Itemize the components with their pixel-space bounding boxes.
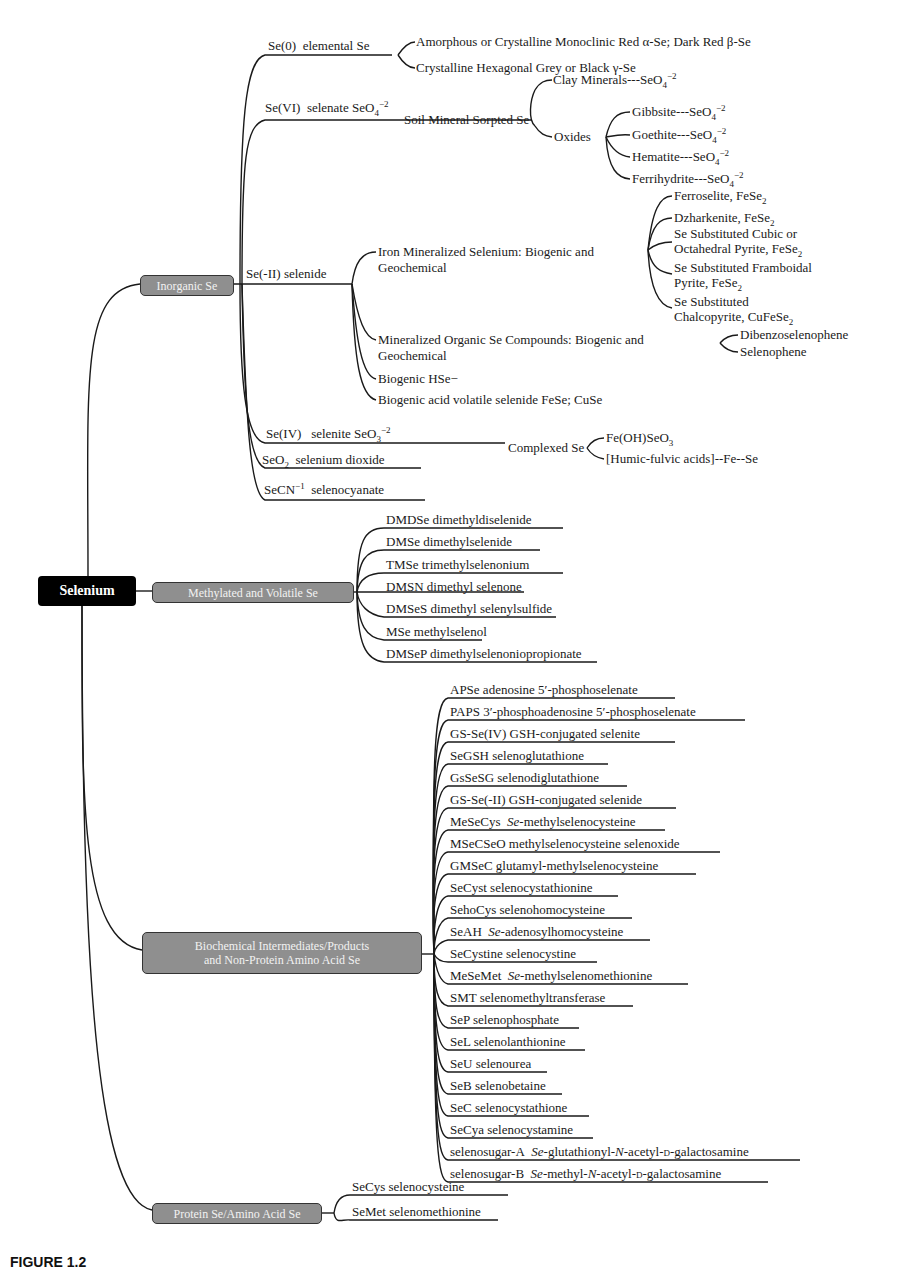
biochemical-item: SeAH Se-adenosylhomocysteine — [450, 924, 623, 939]
node-selenophene: Selenophene — [740, 344, 806, 359]
methylated-item: MSe methylselenol — [386, 624, 487, 639]
category-methylated-volatile-se[interactable]: Methylated and Volatile Se — [152, 582, 354, 603]
biochemical-item: SeL selenolanthionine — [450, 1034, 565, 1049]
category-protein-amino-acid-se[interactable]: Protein Se/Amino Acid Se — [152, 1203, 322, 1224]
node-feohseo3: Fe(OH)SeO3 — [606, 430, 673, 445]
node-organic-compounds-line1: Mineralized Organic Se Compounds: Biogen… — [378, 332, 644, 347]
node-chalcopyrite: Se SubstitutedChalcopyrite, CuFeSe2 — [674, 294, 793, 324]
biochemical-item: SeC selenocystathione — [450, 1100, 567, 1115]
biochemical-item: SeCyst selenocystathionine — [450, 880, 593, 895]
methylated-item: TMSe trimethylselenonium — [386, 557, 529, 572]
biochemical-item: selenosugar-A Se-glutathionyl-N-acetyl-d… — [450, 1144, 749, 1159]
biochemical-item: MSeCSeO methylselenocysteine selenoxide — [450, 836, 680, 851]
protein-item-semet: SeMet selenomethionine — [352, 1204, 481, 1219]
biochemical-item: MeSeMet Se-methylselenomethionine — [450, 968, 652, 983]
methylated-item: DMSeS dimethyl selenylsulfide — [386, 601, 552, 616]
biochemical-item: SeP selenophosphate — [450, 1012, 559, 1027]
node-cubic-pyrite: Se Substituted Cubic orOctahedral Pyrite… — [674, 226, 802, 256]
node-clay-minerals: Clay Minerals---SeO4−2 — [553, 72, 676, 87]
node-humic-fulvic: [Humic-fulvic acids]--Fe--Se — [606, 451, 758, 466]
biochemical-item: SehoCys selenohomocysteine — [450, 902, 605, 917]
node-biogenic-avs: Biogenic acid volatile selenide FeSe; Cu… — [378, 392, 602, 407]
biochemical-item: GsSeSG selenodiglutathione — [450, 770, 599, 785]
root-node-selenium[interactable]: Selenium — [38, 576, 136, 606]
category-biochemical-intermediates[interactable]: Biochemical Intermediates/Products and N… — [142, 932, 422, 974]
node-iron-mineralized-line2: Geochemical — [378, 260, 447, 275]
node-biogenic-hse: Biogenic HSe− — [378, 371, 458, 386]
node-soil-mineral-sorpted: Soil Mineral Sorpted Se — [404, 112, 529, 127]
node-se0-elemental: Se(0) elemental Se — [268, 38, 369, 53]
biochemical-item: APSe adenosine 5′-phosphoselenate — [450, 682, 638, 697]
node-gibbsite: Gibbsite---SeO4−2 — [632, 104, 726, 119]
node-framboidal-pyrite: Se Substituted FramboidalPyrite, FeSe2 — [674, 260, 812, 290]
category-biochemical-line1: Biochemical Intermediates/Products — [195, 939, 369, 953]
biochemical-item: GMSeC glutamyl-methylselenocysteine — [450, 858, 658, 873]
biochemical-item: GS-Se(-II) GSH-conjugated selenide — [450, 792, 642, 807]
biochemical-item: GS-Se(IV) GSH-conjugated selenite — [450, 726, 640, 741]
node-dibenzoselenophene: Dibenzoselenophene — [740, 327, 848, 342]
node-ferrihydrite: Ferrihydrite---SeO4−2 — [632, 171, 744, 186]
node-secn: SeCN−1 selenocyanate — [264, 482, 384, 497]
biochemical-item: SeGSH selenoglutathione — [450, 748, 584, 763]
methylated-item: DMSN dimethyl selenone — [386, 579, 522, 594]
protein-item-secys: SeCys selenocysteine — [352, 1179, 464, 1194]
node-se-minus2-selenide: Se(-II) selenide — [246, 266, 327, 281]
biochemical-item: SMT selenomethyltransferase — [450, 990, 605, 1005]
figure-caption: FIGURE 1.2 — [10, 1254, 86, 1270]
node-complexed-se: Complexed Se — [508, 440, 584, 455]
methylated-item: DMSeP dimethylselenoniopropionate — [386, 646, 582, 661]
node-ferroselite: Ferroselite, FeSe2 — [674, 188, 767, 203]
node-seo2: SeO2 selenium dioxide — [262, 452, 385, 467]
node-oxides: Oxides — [554, 129, 591, 144]
node-se0-amorphous: Amorphous or Crystalline Monoclinic Red … — [416, 34, 751, 49]
biochemical-item: PAPS 3′-phosphoadenosine 5′-phosphoselen… — [450, 704, 696, 719]
node-hematite: Hematite---SeO4−2 — [632, 149, 729, 164]
biochemical-item: SeCystine selenocystine — [450, 946, 576, 961]
node-organic-compounds-line2: Geochemical — [378, 348, 447, 363]
biochemical-item: SeCya selenocystamine — [450, 1122, 573, 1137]
node-dzharkenite: Dzharkenite, FeSe2 — [674, 210, 775, 225]
biochemical-item: MeSeCys Se-methylselenocysteine — [450, 814, 636, 829]
biochemical-item: SeB selenobetaine — [450, 1078, 546, 1093]
methylated-item: DMSe dimethylselenide — [386, 534, 512, 549]
node-iron-mineralized-line1: Iron Mineralized Selenium: Biogenic and — [378, 244, 594, 259]
biochemical-item: selenosugar-B Se-methyl-N-acetyl-d-galac… — [450, 1166, 721, 1181]
biochemical-item: SeU selenourea — [450, 1056, 531, 1071]
category-biochemical-line2: and Non-Protein Amino Acid Se — [204, 953, 360, 967]
node-se6-selenate: Se(VI) selenate SeO4−2 — [265, 100, 388, 115]
node-se4-selenite: Se(IV) selenite SeO3−2 — [266, 426, 391, 441]
node-goethite: Goethite---SeO4−2 — [632, 127, 726, 142]
category-inorganic-se[interactable]: Inorganic Se — [140, 275, 234, 296]
methylated-item: DMDSe dimethyldiselenide — [386, 512, 532, 527]
